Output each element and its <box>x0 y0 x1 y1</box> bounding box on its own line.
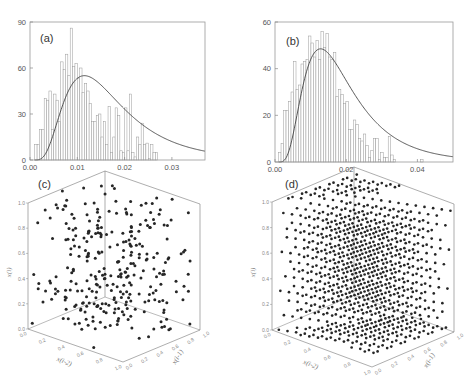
data-point <box>374 338 377 341</box>
data-point <box>347 249 350 252</box>
y-tick-label: 1.0 <box>201 330 210 339</box>
data-point <box>404 340 407 343</box>
histogram-bar <box>289 101 291 162</box>
data-point <box>147 299 150 302</box>
data-point <box>348 325 351 328</box>
data-point <box>308 233 311 236</box>
histogram-bar <box>361 141 363 162</box>
data-point <box>320 258 323 261</box>
data-point <box>105 311 108 314</box>
data-point <box>354 212 357 215</box>
data-point <box>430 246 433 249</box>
data-point <box>187 290 190 293</box>
data-point <box>375 307 378 310</box>
data-point <box>432 292 435 295</box>
data-point <box>318 203 321 206</box>
data-point <box>430 237 433 240</box>
data-point <box>362 270 365 273</box>
data-point <box>114 301 117 304</box>
data-point <box>384 317 387 320</box>
data-point <box>429 276 432 279</box>
data-point <box>427 221 430 224</box>
data-point <box>125 290 128 293</box>
data-point <box>347 240 350 243</box>
data-point <box>380 293 383 296</box>
histogram-bar <box>313 57 315 162</box>
data-point <box>317 319 320 322</box>
data-point <box>382 262 385 265</box>
data-point <box>384 275 387 278</box>
data-point <box>363 299 366 302</box>
data-point <box>381 344 384 347</box>
data-point <box>130 326 133 329</box>
data-point <box>375 325 378 328</box>
data-point <box>360 232 363 235</box>
data-point <box>405 302 408 305</box>
data-point <box>350 295 353 298</box>
data-point <box>360 223 363 226</box>
data-point <box>345 185 348 188</box>
y-tick-label: 60 <box>18 64 26 73</box>
data-point <box>344 216 347 219</box>
data-point <box>386 227 389 230</box>
x-axis-label: x(i-2) <box>55 355 74 369</box>
data-point <box>375 222 378 225</box>
data-point <box>373 244 376 247</box>
data-point <box>409 219 412 222</box>
data-point <box>365 243 368 246</box>
data-point <box>352 316 355 319</box>
data-point <box>100 250 103 253</box>
data-point <box>439 239 442 242</box>
data-point <box>363 256 366 259</box>
data-point <box>379 332 382 335</box>
data-point <box>402 315 405 318</box>
data-point <box>391 264 394 267</box>
data-point <box>381 284 384 287</box>
data-point <box>434 262 437 265</box>
data-point <box>386 253 389 256</box>
data-point <box>373 236 376 239</box>
data-point <box>363 188 366 191</box>
data-point <box>354 187 357 190</box>
data-point <box>141 245 144 248</box>
data-point <box>130 234 133 237</box>
data-point <box>348 300 351 303</box>
data-point <box>361 210 364 213</box>
data-point <box>332 284 335 287</box>
data-point <box>387 239 390 242</box>
data-point <box>291 213 294 216</box>
data-point <box>346 177 349 180</box>
data-point <box>443 263 446 266</box>
data-point <box>170 218 173 221</box>
data-point <box>76 290 79 293</box>
data-point <box>314 286 317 289</box>
histogram-bar <box>75 63 77 160</box>
data-point <box>370 228 373 231</box>
data-point <box>395 339 398 342</box>
data-point <box>363 290 366 293</box>
histogram-bar <box>127 151 129 160</box>
data-point <box>321 335 324 338</box>
data-point <box>340 290 343 293</box>
data-point <box>342 246 345 249</box>
data-point <box>98 286 101 289</box>
x-tick-label: 1.0 <box>114 363 123 371</box>
data-point <box>342 272 345 275</box>
data-point <box>107 304 110 307</box>
data-point <box>394 288 397 291</box>
histogram-bar <box>146 143 148 160</box>
data-point <box>160 320 163 323</box>
histogram-bar <box>139 145 141 160</box>
data-point <box>360 283 363 286</box>
data-point <box>437 277 440 280</box>
data-point <box>92 320 95 323</box>
data-point <box>372 300 375 303</box>
data-point <box>435 214 438 217</box>
data-point <box>386 338 389 341</box>
data-point <box>362 295 365 298</box>
data-point <box>363 205 366 208</box>
data-point <box>72 238 75 241</box>
data-point <box>31 322 34 325</box>
data-point <box>336 266 339 269</box>
data-point <box>171 198 174 201</box>
